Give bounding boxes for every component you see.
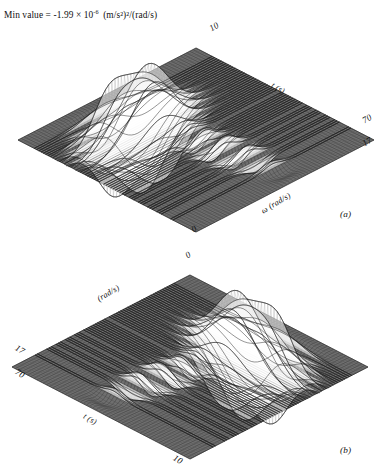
panel-a: 10 t (s) 70 17 ω (rad/s) 0 (a) bbox=[0, 22, 384, 234]
figure-root: Min value = -1.99 × 10-6 (m/s²)²/(rad/s)… bbox=[0, 0, 384, 471]
panel-b: 0 (rad/s) 17 70 t (s) 10 (b) bbox=[0, 243, 384, 471]
min-value-prefix: Min value = -1.99 × 10 bbox=[4, 10, 93, 20]
surface-plot-a bbox=[0, 22, 384, 234]
surface-plot-b bbox=[0, 243, 384, 471]
panel-b-subfigure-label: (b) bbox=[340, 445, 351, 455]
min-value-exponent: -6 bbox=[93, 8, 98, 15]
panel-a-subfigure-label: (a) bbox=[340, 209, 351, 219]
min-value-units: (m/s²)²/(rad/s) bbox=[101, 10, 159, 20]
min-value-annotation: Min value = -1.99 × 10-6 (m/s²)²/(rad/s) bbox=[4, 9, 159, 21]
